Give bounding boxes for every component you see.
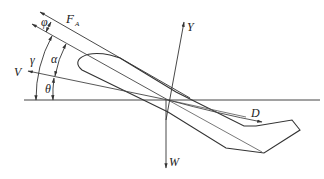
fa-vector xyxy=(40,12,190,98)
y-label: Y xyxy=(187,20,195,34)
fa-subscript: A xyxy=(74,20,80,28)
v-label: V xyxy=(14,65,23,79)
phi-label: φ xyxy=(41,15,48,29)
theta-arc xyxy=(53,78,54,100)
fa-label: F xyxy=(65,11,75,26)
gamma-label: γ xyxy=(30,53,35,67)
alpha-label: α xyxy=(51,52,58,66)
v-extension xyxy=(168,100,246,117)
d-label: D xyxy=(250,106,260,120)
w-label: W xyxy=(169,155,180,169)
theta-label: θ xyxy=(45,82,51,96)
diagram-canvas: φ F A γ α V θ Y D W xyxy=(0,0,324,179)
y-vector xyxy=(166,22,184,120)
aircraft-force-diagram: φ F A γ α V θ Y D W xyxy=(0,0,324,179)
